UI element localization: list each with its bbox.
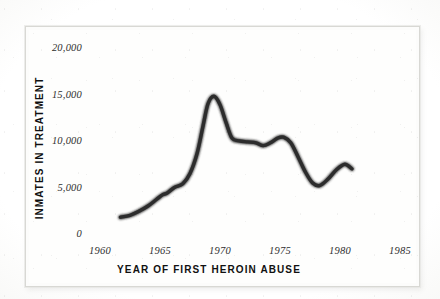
x-tick-label-1965: 1965 [149, 245, 171, 256]
y-tick-label-20000: 20,000 [4, 42, 82, 53]
chart-figure: 20,000 15,000 10,000 5,000 0 1960 1965 1… [0, 0, 440, 299]
x-tick-label-1960: 1960 [89, 245, 111, 256]
x-tick-label-1985: 1985 [389, 245, 411, 256]
x-axis-title: YEAR OF FIRST HEROIN ABUSE [117, 264, 301, 275]
y-tick-label-0: 0 [4, 228, 82, 239]
x-tick-label-1970: 1970 [209, 245, 231, 256]
x-tick-label-1980: 1980 [329, 245, 351, 256]
y-axis-title: INMATES IN TREATMENT [34, 77, 45, 220]
x-tick-label-1975: 1975 [269, 245, 291, 256]
